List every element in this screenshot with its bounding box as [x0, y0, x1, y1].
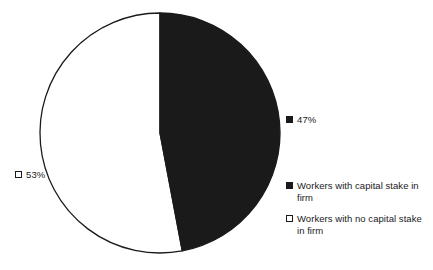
data-label-slice-one-value: 47%	[297, 114, 316, 125]
chart-legend: Workers with capital stake in firm Worke…	[286, 180, 433, 246]
legend-item-label: Workers with no capital stake in firm	[297, 213, 428, 236]
legend-item-workers-no-capital-stake: Workers with no capital stake in firm	[286, 213, 433, 236]
pie-chart-figure: 47% 53% Workers with capital stake in fi…	[0, 0, 433, 270]
data-label-slice-two: 53%	[15, 169, 45, 180]
pie-slice-workers-capital-stake	[160, 13, 280, 251]
filled-square-marker-icon	[286, 182, 293, 189]
data-label-slice-two-value: 53%	[26, 169, 45, 180]
filled-square-marker-icon	[286, 116, 293, 123]
hollow-square-marker-icon	[286, 215, 293, 222]
hollow-square-marker-icon	[15, 171, 22, 178]
legend-item-workers-capital-stake: Workers with capital stake in firm	[286, 180, 433, 203]
legend-item-label: Workers with capital stake in firm	[297, 180, 428, 203]
data-label-slice-one: 47%	[286, 114, 316, 125]
